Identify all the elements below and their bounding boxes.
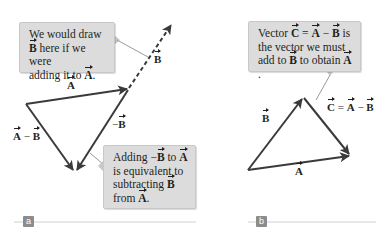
vector-symbol: A: [343, 54, 351, 68]
callout-text: to obtain: [297, 54, 343, 66]
vector-symbol: B: [154, 53, 161, 65]
callout-text: subtracting: [113, 178, 167, 190]
callout-text: from: [113, 192, 138, 204]
label-a-minus-b: A − B: [13, 130, 40, 142]
callout-text: add to: [258, 54, 289, 66]
panel-tag-a: a: [23, 216, 34, 227]
vector-symbol: B: [167, 178, 175, 192]
vector-b: [248, 99, 302, 170]
callout-text: to: [165, 151, 180, 163]
vector-symbol: B: [29, 42, 37, 56]
vector-symbol: C: [327, 101, 335, 113]
vector-symbol: A: [295, 165, 303, 177]
vector-symbol: A: [13, 130, 21, 142]
minus-sign: −: [355, 101, 367, 113]
callout-text: adding it to: [29, 69, 84, 81]
equals-sign: =: [335, 101, 347, 113]
vector-symbol: A: [347, 101, 355, 113]
vector-a: [26, 89, 127, 104]
callout-text: We would draw: [29, 28, 102, 40]
callout-adding-neg-b: Adding −B to A is equivalent to subtract…: [103, 145, 196, 209]
vector-symbol: A: [84, 69, 92, 83]
callout-text: Adding −: [113, 151, 157, 163]
vector-symbol: B: [289, 54, 297, 68]
callout-text: .: [258, 68, 261, 80]
label-b-panel-b: B: [262, 112, 269, 124]
callout-vector-c: Vector C = A − B is the vector we must a…: [248, 21, 361, 72]
callout-text: is: [340, 27, 351, 39]
vector-b-dashed: [129, 25, 171, 88]
callout-text: the vector we must: [258, 41, 345, 53]
vector-symbol: B: [366, 101, 373, 113]
panel-tag-b: b: [256, 216, 267, 227]
minus-sign: −: [21, 130, 33, 142]
vector-symbol: B: [332, 27, 340, 41]
equals-sign: =: [299, 27, 311, 39]
vector-symbol: C: [291, 27, 299, 41]
vector-symbol: A: [67, 79, 75, 91]
vector-symbol: B: [262, 112, 269, 124]
vector-symbol: A: [311, 27, 319, 41]
label-c-eq: C = A − B: [327, 101, 374, 113]
label-b-dashed: B: [154, 53, 161, 65]
vector-symbol: B: [33, 130, 40, 142]
label-neg-b: −B: [112, 118, 126, 130]
vector-symbol: B: [157, 151, 165, 165]
label-a-panel-b: A: [295, 165, 303, 177]
callout-text: here if we were: [29, 42, 86, 68]
panel-b-diagram: [248, 72, 376, 222]
callout-would-draw-b: We would draw B here if we were adding i…: [19, 22, 115, 73]
vector-symbol: A: [179, 151, 187, 165]
minus-sign: −: [320, 27, 332, 39]
vector-symbol: B: [118, 118, 125, 130]
label-a: A: [67, 79, 75, 91]
vector-symbol: A: [138, 192, 146, 206]
leader-line-top: [117, 40, 148, 57]
callout-text: .: [93, 69, 96, 81]
callout-text: Vector: [258, 27, 291, 39]
